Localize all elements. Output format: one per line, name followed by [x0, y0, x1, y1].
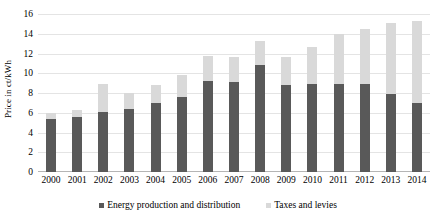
x-axis-tick-label: 2005	[172, 174, 191, 186]
bar-2002	[98, 84, 108, 172]
x-axis-tick-label: 2003	[120, 174, 139, 186]
x-axis-tick-label: 2014	[407, 174, 426, 186]
bar-2009	[281, 57, 291, 172]
stacked-bar-chart: Price in ct/kWh 0246810121416 2000200120…	[0, 0, 436, 219]
bar-segment-energy	[386, 94, 396, 172]
bar-segment-taxes	[203, 56, 213, 81]
bar-segment-taxes	[151, 85, 161, 103]
bar-segment-energy	[412, 103, 422, 172]
y-axis-tick-label: 0	[28, 167, 33, 177]
bar-segment-taxes	[72, 110, 82, 117]
bar-2011	[334, 34, 344, 172]
bar-segment-energy	[334, 84, 344, 172]
bar-2004	[151, 85, 161, 172]
bar-segment-taxes	[412, 21, 422, 103]
x-axis-tick-label: 2008	[251, 174, 270, 186]
bar-2001	[72, 110, 82, 172]
bar-segment-taxes	[281, 57, 291, 85]
x-axis-tick-label: 2010	[303, 174, 322, 186]
legend-label-energy: Energy production and distribution	[107, 200, 240, 210]
y-axis-tick-label: 14	[24, 29, 34, 39]
y-axis-tick-label: 8	[28, 88, 33, 98]
bar-segment-taxes	[255, 41, 265, 66]
bar-2000	[46, 113, 56, 172]
bar-segment-taxes	[307, 47, 317, 85]
bar-2006	[203, 56, 213, 172]
y-axis-tick-label: 4	[28, 128, 33, 138]
bar-segment-taxes	[98, 84, 108, 112]
x-axis-tick-label: 2011	[329, 174, 348, 186]
bar-segment-energy	[72, 117, 82, 172]
bar-2008	[255, 41, 265, 172]
y-axis-tick-label: 6	[28, 108, 33, 118]
bar-segment-taxes	[229, 57, 239, 82]
x-axis-tick-label: 2001	[68, 174, 87, 186]
bar-segment-taxes	[334, 34, 344, 84]
y-axis-title-text: Price in ct/kWh	[3, 60, 13, 118]
bar-segment-energy	[151, 103, 161, 172]
x-axis-tick-label: 2007	[225, 174, 244, 186]
bar-segment-taxes	[177, 75, 187, 97]
y-axis-tick-label: 2	[28, 147, 33, 157]
bars-layer	[38, 14, 430, 172]
bar-2003	[124, 93, 134, 172]
x-axis-tick-label: 2012	[355, 174, 374, 186]
bar-2007	[229, 57, 239, 172]
chart-legend: Energy production and distribution Taxes…	[0, 196, 436, 214]
y-axis-tick-label: 12	[24, 49, 34, 59]
bar-segment-taxes	[360, 29, 370, 84]
x-axis-tick-labels: 2000200120022003200420052006200720082009…	[38, 174, 430, 188]
x-axis-tick-label: 2004	[146, 174, 165, 186]
legend-item-taxes-and-levies: Taxes and levies	[266, 200, 337, 210]
legend-item-energy-production-and-distribution: Energy production and distribution	[99, 200, 240, 210]
bar-segment-energy	[229, 82, 239, 172]
legend-swatch-icon-energy	[99, 203, 104, 208]
x-axis-tick-label: 2013	[381, 174, 400, 186]
x-axis-tick-label: 2009	[277, 174, 296, 186]
legend-swatch-icon-taxes	[266, 203, 271, 208]
bar-segment-energy	[98, 112, 108, 172]
bar-segment-energy	[124, 109, 134, 172]
bar-segment-energy	[360, 84, 370, 172]
bar-2010	[307, 47, 317, 172]
y-axis-tick-label: 10	[24, 68, 34, 78]
bar-segment-energy	[255, 65, 265, 172]
y-axis-title: Price in ct/kWh	[0, 0, 16, 178]
bar-2005	[177, 75, 187, 172]
bar-segment-energy	[203, 81, 213, 172]
legend-label-taxes: Taxes and levies	[274, 200, 337, 210]
bar-2013	[386, 23, 396, 172]
y-axis-tick-label: 16	[24, 9, 34, 19]
bar-2014	[412, 21, 422, 172]
bar-segment-taxes	[124, 93, 134, 109]
y-axis-tick-labels: 0246810121416	[16, 0, 36, 178]
plot-area	[38, 14, 430, 172]
x-axis-tick-label: 2000	[42, 174, 61, 186]
bar-segment-taxes	[386, 23, 396, 94]
bar-segment-energy	[307, 84, 317, 172]
x-axis-tick-label: 2002	[94, 174, 113, 186]
bar-segment-energy	[177, 97, 187, 172]
bar-2012	[360, 29, 370, 172]
bar-segment-energy	[281, 85, 291, 172]
bar-segment-energy	[46, 119, 56, 172]
x-axis-tick-label: 2006	[198, 174, 217, 186]
